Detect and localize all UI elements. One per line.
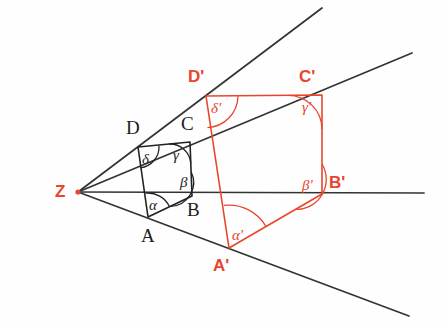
- ray-Z-B-Bprime: [78, 192, 424, 193]
- center-point-Z-dot: [75, 189, 80, 194]
- diagram-canvas: [0, 0, 445, 329]
- label-vertex-B: B: [187, 200, 200, 219]
- label-angle-gamma: γ: [173, 148, 179, 163]
- label-vertex-C-prime: C': [299, 68, 315, 85]
- label-angle-beta-prime: β': [302, 178, 313, 193]
- image-quadrilateral-AprimeBprimeCprimeDprime: [206, 95, 322, 248]
- label-vertex-A: A: [141, 226, 155, 245]
- label-vertex-B-prime: B': [329, 174, 345, 191]
- label-angle-delta-prime: δ': [211, 101, 221, 116]
- ray-group: [78, 8, 424, 316]
- ray-Z-D-Dprime: [78, 8, 322, 192]
- angle-arc-alpha-prime: [224, 205, 266, 226]
- polygon-AprimeBprimeCprimeDprime: [206, 95, 322, 248]
- label-vertex-A-prime: A': [213, 257, 229, 274]
- label-angle-alpha: α: [149, 198, 157, 213]
- dilation-diagram: Z A B C D α β γ δ A' B' C' D' α' β' γ' δ…: [0, 0, 445, 329]
- label-angle-alpha-prime: α': [232, 228, 243, 243]
- label-center-Z: Z: [55, 183, 65, 200]
- label-vertex-D: D: [126, 118, 140, 137]
- label-angle-delta: δ: [142, 152, 149, 167]
- ray-Z-A-Aprime: [78, 192, 409, 316]
- label-vertex-C: C: [181, 114, 194, 133]
- label-vertex-D-prime: D': [188, 68, 204, 85]
- label-angle-gamma-prime: γ': [302, 100, 311, 115]
- label-angle-beta: β: [180, 175, 187, 190]
